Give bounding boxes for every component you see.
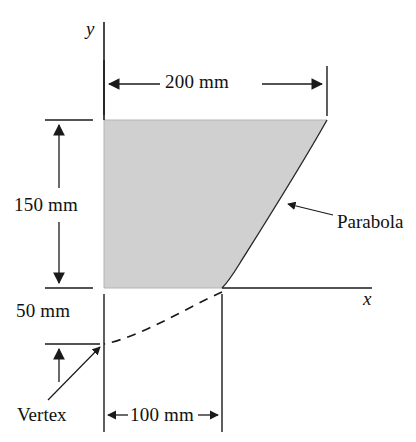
x-axis-label: x <box>363 288 371 310</box>
shaded-region <box>104 120 327 288</box>
parabola-leader-line <box>288 204 333 215</box>
parabola-dashed-extension <box>104 292 222 344</box>
dimension-label-100mm: 100 mm <box>130 404 194 426</box>
vertex-leader-line <box>48 347 100 400</box>
dimension-label-50mm: 50 mm <box>16 300 70 322</box>
dimension-label-200mm: 200 mm <box>165 71 229 93</box>
parabola-annotation-label: Parabola <box>337 211 403 233</box>
parabola-area-figure: y x 200 mm 150 mm 50 mm 100 mm Parabola … <box>0 0 416 442</box>
dimension-label-150mm: 150 mm <box>14 194 78 216</box>
vertex-annotation-label: Vertex <box>17 404 67 426</box>
y-axis-label: y <box>86 18 94 40</box>
